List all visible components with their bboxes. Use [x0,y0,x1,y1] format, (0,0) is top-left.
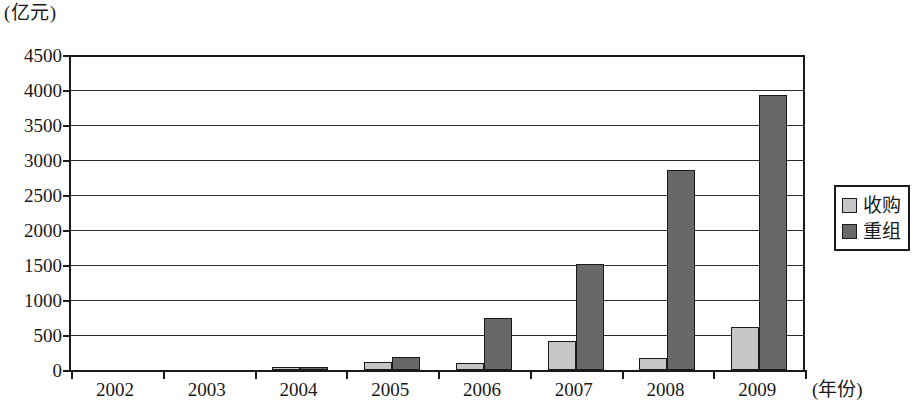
gridline [71,160,805,161]
y-axis-tick-mark [63,265,71,267]
x-axis-tick-label: 2002 [69,378,161,402]
x-axis-title: (年份) [812,378,863,402]
y-axis-tick-mark [63,230,71,232]
y-axis-tick-label: 2500 [0,186,62,205]
y-axis-tick-labels: 450040003500300025002000150010005000 [0,55,62,372]
bar-收购-2008 [639,358,667,370]
x-axis-tick-label: 2008 [619,378,711,402]
y-axis-tick-label: 1500 [0,256,62,275]
bar-重组-2004 [300,367,328,371]
legend-swatch-icon [842,198,857,213]
bar-收购-2006 [456,363,484,370]
x-axis-tick-label: 2006 [436,378,528,402]
y-axis-tick-label: 3000 [0,151,62,170]
bar-重组-2006 [484,318,512,371]
bar-重组-2007 [576,264,604,370]
y-axis-tick-label: 0 [0,361,62,380]
y-axis-tick-mark [63,55,71,57]
bar-chart: (亿元) 45004000350030002500200015001000500… [0,0,914,405]
bar-重组-2008 [667,170,695,370]
bar-重组-2005 [392,357,420,370]
y-axis-tick-label: 1000 [0,291,62,310]
plot-top-border [71,55,805,57]
y-axis-tick-label: 4000 [0,81,62,100]
x-axis-tick-label: 2004 [252,378,344,402]
legend-swatch-icon [842,224,857,239]
y-axis-tick-label: 4500 [0,46,62,65]
gridline [71,125,805,126]
y-axis-unit-label: (亿元) [4,2,57,24]
y-axis-tick-mark [63,160,71,162]
legend-label: 收购 [863,196,901,215]
x-axis-tick-label: 2009 [711,378,803,402]
y-axis-tick-mark [63,125,71,127]
plot-area [69,55,805,372]
y-axis-tick-mark [63,90,71,92]
y-axis-tick-mark [63,335,71,337]
legend-label: 重组 [863,222,901,241]
x-axis-tick-label: 2003 [161,378,253,402]
legend-item-收购: 收购 [842,192,901,218]
x-axis-tick-mark [805,370,807,379]
y-axis-tick-label: 2000 [0,221,62,240]
bar-收购-2007 [548,341,576,370]
bar-收购-2004 [272,367,300,371]
gridline [71,90,805,91]
bar-重组-2009 [759,95,787,370]
legend-item-重组: 重组 [842,218,901,244]
x-axis-tick-labels: 20022003200420052006200720082009 [69,378,805,404]
y-axis-tick-mark [63,300,71,302]
chart-legend: 收购重组 [834,185,910,251]
x-axis-tick-label: 2007 [528,378,620,402]
y-axis-tick-label: 500 [0,326,62,345]
y-axis-tick-mark [63,195,71,197]
y-axis-tick-label: 3500 [0,116,62,135]
bar-收购-2005 [364,362,392,370]
bar-收购-2009 [731,327,759,370]
plot-right-border [803,55,805,370]
y-axis-tick-mark [63,370,71,372]
x-axis-tick-label: 2005 [344,378,436,402]
